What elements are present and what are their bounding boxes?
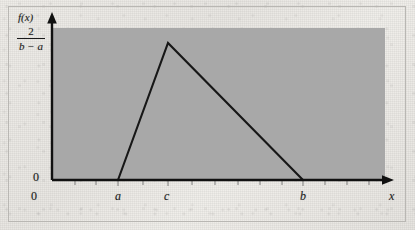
y-tick-label-zero: 0 xyxy=(33,171,39,183)
x-tick-label-a: a xyxy=(115,190,121,202)
fraction-bar xyxy=(17,38,45,39)
triangular-distribution-plot xyxy=(0,0,415,230)
figure-container: f(x) 2 b − a 0 0 a c b x xyxy=(0,0,415,230)
y-axis-arrowhead xyxy=(47,12,57,24)
x-axis-label: x xyxy=(389,190,394,202)
y-tick-label-max: 2 b − a xyxy=(17,26,45,52)
x-axis-minor-ticks xyxy=(75,181,369,186)
x-axis-arrowhead xyxy=(382,175,394,185)
y-axis-label: f(x) xyxy=(18,12,33,23)
x-tick-label-c: c xyxy=(164,190,169,202)
fraction-numerator: 2 xyxy=(17,26,45,38)
x-tick-label-b: b xyxy=(300,190,306,202)
plot-area-fill xyxy=(52,28,385,180)
fraction-denominator: b − a xyxy=(17,40,45,52)
x-tick-label-zero: 0 xyxy=(31,190,37,202)
